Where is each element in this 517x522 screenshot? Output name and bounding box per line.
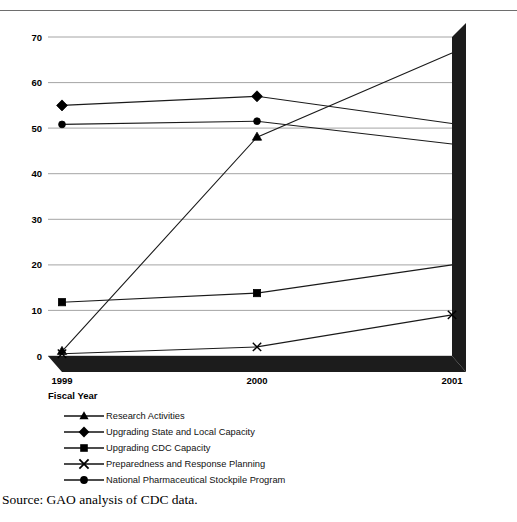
square-marker [58, 299, 65, 306]
circle-marker [59, 121, 66, 128]
legend-item-upgrading-cdc-capacity: Upgrading CDC Capacity [62, 440, 517, 456]
circle-marker [62, 472, 106, 488]
legend-label: Research Activities [106, 408, 185, 424]
x-marker [62, 456, 106, 472]
y-tick-70: 70 [31, 32, 42, 43]
diamond-marker [57, 100, 68, 111]
y-tick-60: 60 [31, 77, 42, 88]
line-chart: 70 60 50 40 30 20 10 0 [0, 0, 517, 400]
y-axis-labels: 70 60 50 40 30 20 10 0 [31, 32, 42, 362]
chart-svg: 70 60 50 40 30 20 10 0 [0, 0, 517, 400]
x-tick-2000: 2000 [246, 375, 267, 386]
diamond-marker [62, 424, 106, 440]
y-tick-30: 30 [31, 214, 42, 225]
legend-item-preparedness-and-response-planning: Preparedness and Response Planning [62, 456, 517, 472]
gridlines [48, 37, 452, 356]
y-tick-10: 10 [31, 305, 42, 316]
source-note: Source: GAO analysis of CDC data. [2, 492, 198, 508]
series-upgrading-cdc-capacity [58, 265, 452, 306]
square-marker [253, 290, 260, 297]
chart-legend: Research Activities Upgrading State and … [0, 408, 517, 488]
legend-label: National Pharmaceutical Stockpile Progra… [106, 472, 285, 488]
square-marker [62, 440, 106, 456]
legend-item-national-pharmaceutical-stockpile-program: National Pharmaceutical Stockpile Progra… [62, 472, 517, 488]
circle-marker [254, 118, 261, 125]
x-axis-labels: 1999 2000 2001 Fiscal Year [48, 375, 463, 400]
x-axis-title: Fiscal Year [48, 390, 98, 400]
y-tick-40: 40 [31, 168, 42, 179]
legend-label: Preparedness and Response Planning [106, 456, 265, 472]
legend-item-research-activities: Research Activities [62, 408, 517, 424]
y-tick-20: 20 [31, 259, 42, 270]
diamond-marker [252, 91, 263, 102]
x-tick-2001: 2001 [441, 375, 463, 386]
legend-item-upgrading-state-and-local-capacity: Upgrading State and Local Capacity [62, 424, 517, 440]
chart-right-wall-3d [452, 23, 466, 372]
triangle-marker [62, 408, 106, 424]
x-tick-1999: 1999 [51, 375, 72, 386]
y-tick-0: 0 [37, 351, 42, 362]
series-preparedness-and-response-planning [58, 311, 456, 358]
legend-label: Upgrading State and Local Capacity [106, 424, 255, 440]
y-tick-50: 50 [31, 123, 42, 134]
legend-label: Upgrading CDC Capacity [106, 440, 210, 456]
chart-floor-3d [48, 356, 466, 372]
